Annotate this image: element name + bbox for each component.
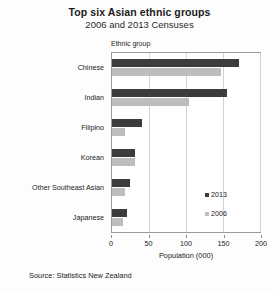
bar-2006 bbox=[112, 68, 221, 76]
category-label: Japanese bbox=[0, 203, 108, 233]
x-axis-label: Population (000) bbox=[111, 251, 261, 260]
tick-mark bbox=[111, 235, 112, 238]
bar-group bbox=[112, 83, 260, 113]
bar-group bbox=[112, 142, 260, 172]
y-axis-label: Ethnic group bbox=[111, 40, 150, 47]
bar-2006 bbox=[112, 218, 123, 226]
tick-mark bbox=[261, 235, 262, 238]
plot-area bbox=[111, 52, 261, 233]
chart-page: Top six Asian ethnic groups 2006 and 201… bbox=[0, 0, 279, 291]
category-label: Filipino bbox=[0, 112, 108, 142]
legend-item[interactable]: 2006 bbox=[205, 209, 227, 218]
bar-group bbox=[112, 172, 260, 202]
legend-swatch-icon bbox=[205, 212, 209, 216]
legend-label: 2006 bbox=[211, 209, 227, 218]
bar-2013 bbox=[112, 149, 135, 157]
x-tick-label: 100 bbox=[180, 239, 192, 248]
bar-2013 bbox=[112, 209, 127, 217]
bar-2006 bbox=[112, 128, 125, 136]
category-axis: ChineseIndianFilipinoKoreanOther Southea… bbox=[0, 52, 108, 233]
bar-2006 bbox=[112, 158, 135, 166]
x-tick-label: 200 bbox=[255, 239, 267, 248]
bar-group bbox=[112, 53, 260, 83]
bar-2006 bbox=[112, 98, 189, 106]
bar-2013 bbox=[112, 119, 142, 127]
chart-title: Top six Asian ethnic groups bbox=[0, 6, 279, 18]
bar-2013 bbox=[112, 179, 130, 187]
bar-2006 bbox=[112, 188, 125, 196]
bar-group bbox=[112, 202, 260, 232]
legend-label: 2013 bbox=[211, 190, 227, 199]
tick-mark bbox=[224, 235, 225, 238]
bar-group bbox=[112, 113, 260, 143]
tick-mark bbox=[149, 235, 150, 238]
x-tick-label: 150 bbox=[218, 239, 230, 248]
source-note: Source: Statistics New Zealand bbox=[29, 271, 132, 280]
category-label: Korean bbox=[0, 143, 108, 173]
chart-subtitle: 2006 and 2013 Censuses bbox=[0, 19, 279, 30]
x-axis-ticks: 050100150200 bbox=[111, 235, 261, 247]
bar-2013 bbox=[112, 59, 239, 67]
bar-groups bbox=[112, 53, 260, 232]
category-label: Other Southeast Asian bbox=[0, 173, 108, 203]
category-label: Chinese bbox=[0, 52, 108, 82]
legend-item[interactable]: 2013 bbox=[205, 190, 227, 199]
tick-mark bbox=[186, 235, 187, 238]
x-tick-label: 50 bbox=[145, 239, 153, 248]
chart-legend: 20132006 bbox=[205, 190, 227, 228]
legend-swatch-icon bbox=[205, 193, 209, 197]
x-tick-label: 0 bbox=[109, 239, 113, 248]
category-label: Indian bbox=[0, 82, 108, 112]
gridline bbox=[260, 53, 261, 232]
bar-2013 bbox=[112, 89, 227, 97]
